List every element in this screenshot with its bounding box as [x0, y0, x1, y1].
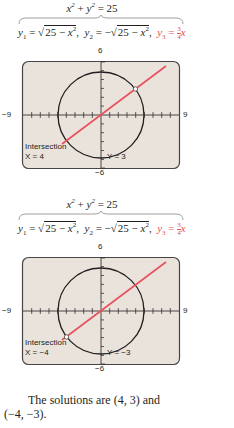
brace-2 [18, 211, 184, 221]
x-readout: X = 4 [25, 152, 44, 161]
y-readout: Y = 3 [107, 152, 126, 161]
y-readout: Y = −3 [107, 348, 130, 357]
equation-functions-1: y1 = √25 − x2, y2 = −√25 − x2, y3 = 34x [18, 25, 186, 41]
equation-functions-2: y1 = √25 − x2, y2 = −√25 − x2, y3 = 34x [18, 221, 186, 237]
equation-circle-2: x2 + y2 = 25 [0, 197, 184, 210]
brace-1 [18, 15, 184, 25]
solutions-line-2: (−4, −3). [4, 407, 232, 421]
solutions-line-1: The solutions are (4, 3) and [4, 393, 232, 407]
screen-title: Intersection [25, 142, 66, 151]
solutions-paragraph: The solutions are (4, 3) and (−4, −3). [4, 393, 232, 421]
equation-circle-1: x2 + y2 = 25 [0, 1, 184, 14]
x-readout: X = −4 [25, 348, 49, 357]
screen-title: Intersection [25, 338, 66, 347]
calculator-graph-2: 6 −9 9 −6 Intersection X = −4 Y [0, 242, 234, 372]
calculator-graph-1: 6 −9 9 −6 [0, 46, 234, 176]
